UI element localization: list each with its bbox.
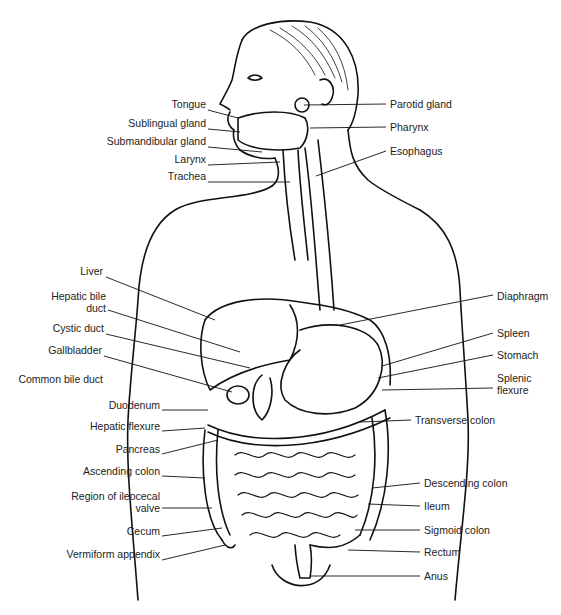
label-liver: Liver [80,265,103,277]
ascending-colon [203,430,222,540]
oral-cavity [238,112,308,150]
label-cecum: Cecum [127,525,160,537]
duodenum [253,375,272,420]
diaphragm [205,299,390,385]
esophagus [305,148,320,310]
gallbladder [227,386,249,404]
label-ascending-colon: Ascending colon [83,465,160,477]
label-tongue: Tongue [172,98,206,110]
label-rectum: Rectum [424,546,460,558]
label-sublingual-gland: Sublingual gland [128,117,206,129]
ear [320,79,333,105]
label-hepatic-flexure: Hepatic flexure [90,420,160,432]
label-diaphragm: Diaphragm [497,290,548,302]
label-parotid-gland: Parotid gland [390,98,452,110]
label-vermiform-appendix: Vermiform appendix [67,548,160,560]
label-anus: Anus [424,570,448,582]
label-submandibular-gland: Submandibular gland [107,135,206,147]
label-esophagus: Esophagus [390,145,443,157]
label-cystic-duct: Cystic duct [53,322,104,334]
label-descending-colon: Descending colon [424,477,507,489]
torso-left [128,186,272,600]
torso-right [420,210,468,600]
small-intestine [235,453,358,538]
vermiform-appendix [222,540,235,548]
rectum [295,545,312,578]
label-region-of-ileocecal-valve: Region of ileocecal valve [71,490,160,514]
label-spleen: Spleen [497,327,530,339]
label-hepatic-bile-duct: Hepatic bile duct [51,290,106,314]
label-sigmoid-colon: Sigmoid colon [424,524,490,536]
label-stomach: Stomach [497,349,538,361]
trachea [283,150,295,260]
label-pancreas: Pancreas [116,443,160,455]
label-splenic-flexure: Splenic flexure [497,372,531,396]
label-larynx: Larynx [174,153,206,165]
label-common-bile-duct: Common bile duct [18,373,103,385]
label-pharynx: Pharynx [390,121,429,133]
liver [201,305,298,390]
stomach [281,325,382,414]
transverse-colon [208,410,385,439]
eye [248,75,262,80]
label-gallbladder: Gallbladder [48,344,102,356]
label-ileum: Ileum [424,500,450,512]
descending-colon [370,410,388,540]
label-transverse-colon: Transverse colon [415,414,495,426]
label-trachea: Trachea [168,170,206,182]
digestive-system-diagram: Tongue Sublingual gland Submandibular gl… [0,0,561,615]
label-duodenum: Duodenum [109,399,160,411]
